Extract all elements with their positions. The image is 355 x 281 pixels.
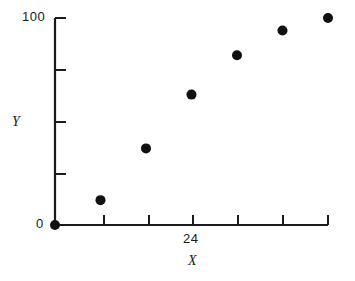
y-axis-tick-label-min: 0 (36, 216, 44, 231)
data-point (96, 195, 106, 205)
data-point (278, 25, 288, 35)
data-point (323, 13, 333, 23)
x-axis-ticks (55, 215, 328, 225)
data-point (232, 50, 242, 60)
y-axis-ticks (55, 18, 66, 174)
x-axis-title: X (188, 253, 197, 269)
data-point (187, 90, 197, 100)
data-point (50, 220, 60, 230)
plot-canvas (0, 0, 355, 281)
data-point-series (50, 13, 333, 230)
scatter-plot-figure: 100 0 24 Y X (0, 0, 355, 281)
data-point (141, 143, 151, 153)
y-axis-title: Y (12, 114, 20, 130)
x-axis-tick-label-mid: 24 (183, 231, 198, 246)
y-axis-tick-label-max: 100 (22, 9, 45, 24)
